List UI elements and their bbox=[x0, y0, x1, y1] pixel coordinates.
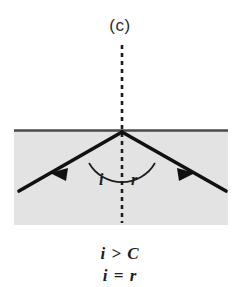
denser-medium-region bbox=[14, 131, 228, 225]
angle-label-reflection: r bbox=[131, 171, 137, 189]
caption-block: i > C i = r bbox=[0, 243, 240, 287]
figure-root: (c) i r i > C i = r bbox=[0, 0, 240, 287]
caption-line-equality: i = r bbox=[0, 265, 240, 287]
angle-label-incidence: i bbox=[99, 171, 103, 189]
caption-line-condition: i > C bbox=[0, 243, 240, 265]
